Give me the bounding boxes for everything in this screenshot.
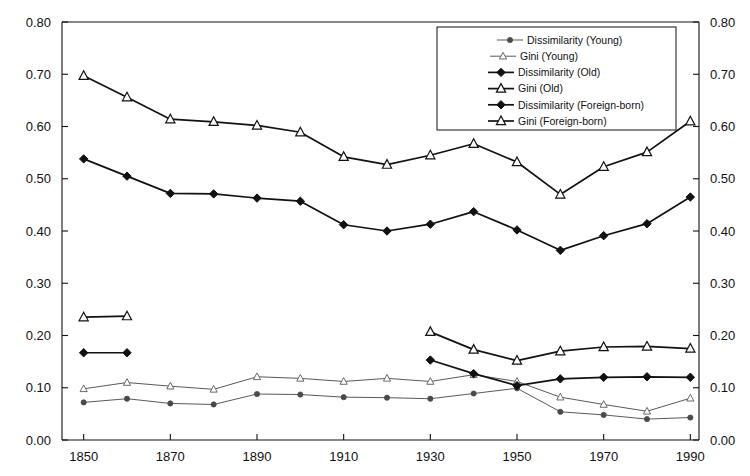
data-point-marker [79, 155, 87, 163]
data-point-marker [123, 379, 130, 386]
data-point-marker [686, 116, 695, 125]
data-point-marker [123, 349, 131, 357]
y-tick-label-right: 0.50 [710, 171, 735, 186]
data-point-marker [558, 409, 563, 414]
data-point-marker [384, 395, 389, 400]
y-tick-label-right: 0.40 [710, 224, 735, 239]
data-point-marker [339, 221, 347, 229]
legend-label: Gini (Young) [520, 50, 578, 62]
data-point-marker [123, 172, 131, 180]
x-tick-label: 1890 [243, 449, 272, 464]
data-point-marker [556, 246, 564, 254]
data-point-marker [426, 327, 435, 336]
data-point-marker [79, 349, 87, 357]
y-tick-label-left: 0.40 [26, 224, 51, 239]
data-point-marker [469, 207, 477, 215]
data-point-marker [339, 152, 348, 161]
y-tick-label-right: 0.20 [710, 328, 735, 343]
data-point-marker [298, 392, 303, 397]
data-point-marker [383, 374, 390, 381]
data-point-marker [513, 226, 521, 234]
data-point-marker [599, 232, 607, 240]
y-tick-label-left: 0.50 [26, 171, 51, 186]
legend-label: Gini (Foreign-born) [518, 115, 607, 127]
data-point-marker [253, 194, 261, 202]
data-point-marker [471, 391, 476, 396]
y-tick-label-left: 0.60 [26, 119, 51, 134]
data-point-marker [209, 190, 217, 198]
x-tick-label: 1950 [503, 449, 532, 464]
series-line [84, 159, 691, 250]
data-point-marker [643, 373, 651, 381]
data-point-marker [601, 412, 606, 417]
data-point-marker [254, 391, 259, 396]
y-tick-label-left: 0.10 [26, 380, 51, 395]
y-tick-label-left: 0.00 [26, 433, 51, 448]
data-point-marker [556, 189, 565, 198]
x-tick-label: 1970 [589, 449, 618, 464]
x-tick-label: 1910 [329, 449, 358, 464]
data-point-marker [644, 417, 649, 422]
data-point-marker [383, 227, 391, 235]
data-point-marker [556, 375, 564, 383]
data-point-marker [168, 401, 173, 406]
x-tick-label: 1870 [156, 449, 185, 464]
data-point-marker [124, 396, 129, 401]
legend-label: Gini (Old) [518, 82, 563, 94]
y-tick-label-left: 0.20 [26, 328, 51, 343]
y-tick-label-left: 0.70 [26, 67, 51, 82]
data-point-marker [686, 373, 694, 381]
series-dissimilarity-foreign-born [79, 349, 694, 390]
y-tick-label-left: 0.30 [26, 276, 51, 291]
data-point-marker [211, 402, 216, 407]
data-point-marker [687, 394, 694, 401]
data-point-marker [642, 147, 651, 156]
x-tick-label: 1990 [676, 449, 705, 464]
chart-container: 0.000.000.100.100.200.200.300.300.400.40… [0, 0, 750, 476]
data-point-marker [426, 220, 434, 228]
x-tick-label: 1930 [416, 449, 445, 464]
x-tick-label: 1850 [69, 449, 98, 464]
line-chart: 0.000.000.100.100.200.200.300.300.400.40… [0, 0, 750, 476]
data-point-marker [426, 356, 434, 364]
data-point-marker [686, 193, 694, 201]
data-point-marker [81, 400, 86, 405]
data-point-marker [253, 373, 260, 380]
legend-label: Dissimilarity (Old) [518, 66, 600, 78]
data-point-marker [428, 396, 433, 401]
series-gini-foreign-born [79, 311, 695, 364]
y-tick-label-right: 0.80 [710, 15, 735, 30]
data-point-marker [296, 197, 304, 205]
legend: Dissimilarity (Young)Gini (Young)Dissimi… [437, 27, 676, 130]
data-point-marker [599, 373, 607, 381]
data-point-marker [341, 395, 346, 400]
y-tick-label-right: 0.00 [710, 433, 735, 448]
y-tick-label-right: 0.70 [710, 67, 735, 82]
series-line [84, 316, 127, 317]
legend-label: Dissimilarity (Foreign-born) [518, 99, 644, 111]
data-point-marker [507, 37, 512, 42]
y-tick-label-right: 0.10 [710, 380, 735, 395]
y-tick-label-right: 0.30 [710, 276, 735, 291]
data-point-marker [688, 415, 693, 420]
data-point-marker [643, 219, 651, 227]
data-point-marker [79, 71, 88, 80]
y-tick-label-left: 0.80 [26, 15, 51, 30]
data-point-marker [166, 189, 174, 197]
legend-label: Dissimilarity (Young) [527, 34, 622, 46]
data-point-marker [469, 139, 478, 148]
y-tick-label-right: 0.60 [710, 119, 735, 134]
